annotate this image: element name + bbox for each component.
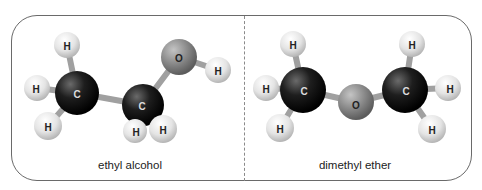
svg-text:H: H (63, 41, 70, 52)
svg-text:O: O (352, 100, 360, 111)
svg-text:H: H (159, 125, 166, 136)
svg-text:H: H (428, 125, 435, 136)
hydrogen-atom: H (24, 75, 50, 101)
oxygen-atom: O (161, 39, 197, 75)
svg-text:C: C (138, 101, 145, 112)
svg-text:H: H (276, 124, 283, 135)
hydrogen-atom: H (435, 75, 461, 101)
svg-text:C: C (402, 86, 409, 97)
svg-text:H: H (214, 66, 221, 77)
hydrogen-atom: H (418, 115, 446, 143)
carbon-atom: C (382, 67, 428, 113)
hydrogen-atom: H (205, 57, 231, 83)
hydrogen-atom: H (54, 32, 80, 58)
hydrogen-atom: H (34, 112, 62, 140)
hydrogen-atom: H (123, 119, 147, 143)
hydrogen-atom: H (253, 75, 279, 101)
hydrogen-atom: H (399, 31, 425, 57)
svg-text:H: H (132, 127, 139, 138)
carbon-atom: C (55, 71, 99, 115)
svg-text:C: C (300, 86, 307, 97)
svg-text:H: H (32, 84, 39, 95)
svg-text:O: O (175, 53, 183, 64)
svg-text:H: H (446, 84, 453, 95)
svg-text:H: H (44, 122, 51, 133)
carbon-atom: C (280, 67, 326, 113)
svg-text:H: H (408, 40, 415, 51)
oxygen-atom: O (338, 84, 374, 120)
svg-text:H: H (289, 40, 296, 51)
hydrogen-atom: H (149, 115, 177, 143)
hydrogen-atom: H (280, 31, 306, 57)
dimethyl-ether-caption: dimethyl ether (285, 159, 425, 171)
ethyl-alcohol-caption: ethyl alcohol (60, 159, 200, 171)
svg-text:C: C (73, 89, 80, 100)
hydrogen-atom: H (266, 114, 294, 142)
svg-text:H: H (262, 84, 269, 95)
